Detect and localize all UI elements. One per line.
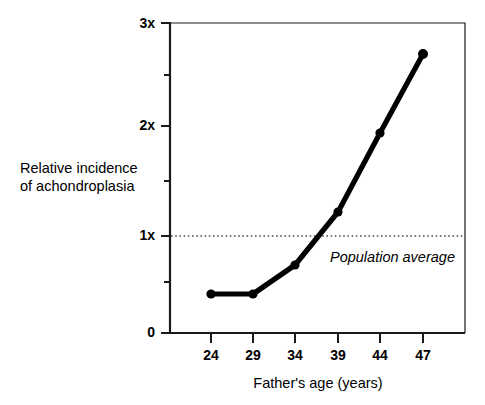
y-tick-label-2x: 2x [139, 117, 155, 133]
incidence-line-chart: 0 1x 2x 3x 24 29 34 39 44 47 Population … [0, 0, 485, 405]
y-tick-label-3x: 3x [139, 15, 155, 31]
data-point-29 [248, 289, 257, 298]
x-axis-title: Father's age (years) [253, 375, 382, 391]
x-tick-label-47: 47 [415, 347, 431, 363]
data-point-24 [206, 289, 215, 298]
y-axis-title-line-2: of achondroplasia [20, 178, 135, 194]
y-axis-title-line-1: Relative incidence [20, 160, 138, 176]
y-tick-label-1x: 1x [139, 227, 155, 243]
data-point-47 [418, 49, 428, 59]
plot-frame [170, 23, 465, 333]
chart-figure: 0 1x 2x 3x 24 29 34 39 44 47 Population … [0, 0, 485, 405]
x-tick-label-39: 39 [330, 347, 346, 363]
x-tick-label-44: 44 [372, 347, 388, 363]
x-tick-label-34: 34 [287, 347, 303, 363]
y-tick-label-0: 0 [147, 324, 155, 340]
population-average-annotation: Population average [330, 249, 455, 265]
x-tick-label-29: 29 [245, 347, 261, 363]
data-point-44 [375, 128, 384, 137]
x-tick-label-24: 24 [203, 347, 219, 363]
data-point-34 [290, 260, 299, 269]
data-point-39 [333, 207, 342, 216]
